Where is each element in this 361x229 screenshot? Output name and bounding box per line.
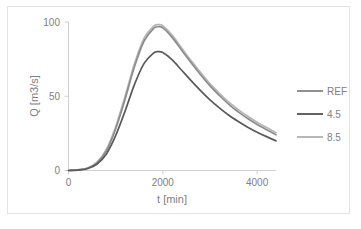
- x-tick-label: 2000: [152, 177, 175, 188]
- x-axis-title: t [min]: [157, 193, 187, 205]
- chart-legend: REF4.58.5: [297, 86, 347, 143]
- series-line-8-5: [69, 24, 277, 170]
- y-tick-label: 0: [54, 165, 60, 176]
- legend-item-ref[interactable]: REF: [297, 86, 347, 97]
- x-axis-ticks: [69, 171, 258, 175]
- data-series-group: [69, 24, 277, 170]
- x-tick-label: 4000: [246, 177, 269, 188]
- y-tick-label: 100: [43, 17, 60, 28]
- y-tick-label: 50: [49, 91, 61, 102]
- x-axis-tick-labels: 020004000: [66, 177, 269, 188]
- series-line-4-5: [69, 52, 277, 171]
- legend-item-4-5[interactable]: 4.5: [297, 109, 341, 120]
- y-axis-ticks: [65, 22, 69, 171]
- y-axis-title: Q [m3/s]: [28, 75, 40, 117]
- legend-label: 8.5: [327, 132, 341, 143]
- legend-label: REF: [327, 86, 347, 97]
- x-tick-label: 0: [66, 177, 72, 188]
- y-axis-tick-labels: 050100: [43, 17, 60, 177]
- legend-label: 4.5: [327, 109, 341, 120]
- series-line-ref: [69, 27, 277, 171]
- line-chart: 050100 020004000 t [min] Q [m3/s] REF4.5…: [0, 0, 361, 229]
- legend-item-8-5[interactable]: 8.5: [297, 132, 341, 143]
